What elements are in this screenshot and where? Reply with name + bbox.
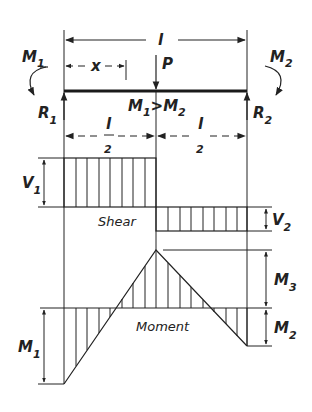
moment-label: Moment [136, 319, 190, 334]
shear-label: Shear [98, 214, 137, 229]
m1-end-label: M1 [22, 48, 45, 70]
half-right-numerator: l [198, 115, 204, 133]
condition-label: M1>M2 [128, 97, 186, 119]
v2-label: V2 [272, 211, 292, 234]
shear-v2-hatching [168, 207, 237, 231]
r2-label: R2 [253, 104, 273, 127]
shear-diagram: V1 V2 Shear [22, 158, 292, 234]
half-left-numerator: l [106, 115, 112, 133]
r1-label: R1 [38, 104, 57, 127]
m3-label: M3 [274, 271, 297, 294]
half-right-denominator: 2 [196, 143, 204, 156]
beam-diagram: l x P R1 R2 M1 M2 M1>M2 l 2 l 2 [0, 0, 312, 412]
moment-diagram: M3 M2 M1 Moment [18, 250, 297, 384]
m2-diagram-label: M2 [274, 319, 297, 342]
shear-v2-block [156, 207, 247, 231]
m1-diagram-label: M1 [18, 338, 41, 361]
half-left-denominator: 2 [104, 143, 112, 156]
moment-m1-arrow-icon [30, 67, 46, 95]
v1-label: V1 [22, 174, 41, 197]
shear-v1-hatching [76, 158, 145, 207]
span-label: l [158, 31, 164, 49]
load-label: P [162, 55, 173, 73]
moment-m2-arrow-icon [265, 66, 281, 95]
x-label: x [90, 57, 102, 75]
m2-end-label: M2 [270, 48, 293, 70]
